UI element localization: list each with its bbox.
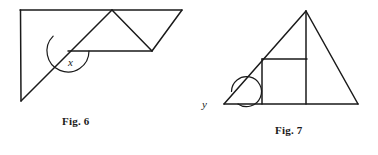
fig6-zigzag-down (112, 10, 152, 51)
angle-label-y: y (202, 98, 207, 110)
figure-7-panel: y Fig. 7 (189, 0, 378, 155)
figure-6-caption: Fig. 6 (62, 115, 89, 127)
fig7-angle-arc-y (232, 77, 262, 107)
figure-sheet: x Fig. 6 y Fig. 7 (0, 0, 378, 155)
fig7-right-side (306, 11, 358, 104)
fig7-left-side (224, 11, 306, 104)
figure-7-caption: Fig. 7 (275, 124, 302, 136)
figure-6-panel: x Fig. 6 (0, 0, 189, 155)
fig6-left-edge (21, 10, 22, 101)
fig6-zigzag-up (152, 10, 182, 51)
figure-6-drawing (0, 0, 189, 155)
fig6-long-diagonal (21, 10, 112, 101)
angle-label-x: x (68, 56, 73, 68)
